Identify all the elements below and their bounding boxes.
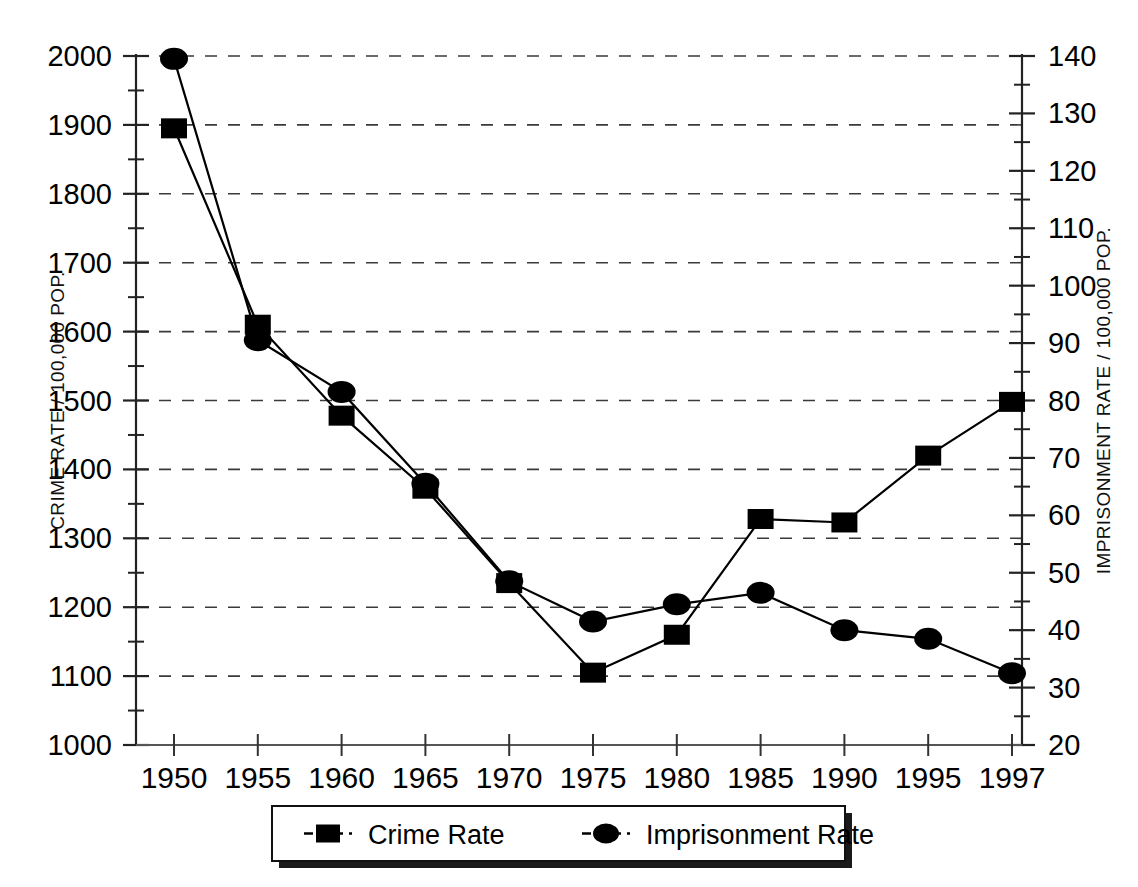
right-axis-tick-label: 70 — [1048, 442, 1080, 474]
left-axis-tick-label: 2000 — [47, 40, 112, 72]
right-axis-tick-label: 90 — [1048, 327, 1080, 359]
data-point-square — [161, 118, 187, 138]
right-axis-tick-label: 30 — [1048, 672, 1080, 704]
right-axis-tick-label: 40 — [1048, 614, 1080, 646]
left-axis-tick-label: 1100 — [50, 660, 112, 692]
x-axis-tick-label: 1975 — [560, 761, 627, 794]
right-axis-tick-label: 80 — [1048, 385, 1080, 417]
x-axis-tick-label: 1970 — [476, 761, 543, 794]
right-axis-tick-label: 50 — [1048, 557, 1080, 589]
legend-marker-circle — [593, 824, 619, 844]
data-point-circle — [411, 473, 439, 495]
legend-label: Crime Rate — [368, 820, 505, 850]
x-axis-tick-label: 1955 — [224, 761, 291, 794]
data-point-circle — [160, 48, 188, 70]
x-axis-tick-label: 1950 — [141, 761, 208, 794]
x-axis-tick-label: 1965 — [392, 761, 459, 794]
data-point-circle — [998, 662, 1026, 684]
right-axis-tick-label: 140 — [1048, 40, 1096, 72]
data-point-circle — [914, 628, 942, 650]
data-point-circle — [244, 329, 272, 351]
left-axis-tick-label: 1000 — [47, 729, 112, 761]
right-axis-tick-label: 100 — [1048, 270, 1096, 302]
x-axis-tick-label: 1990 — [811, 761, 878, 794]
chart-container: 1000110012001300140015001600170018001900… — [0, 0, 1138, 887]
left-axis-tick-label: 1900 — [47, 109, 112, 141]
right-axis-tick-label: 120 — [1048, 155, 1096, 187]
data-point-square — [580, 663, 606, 683]
data-point-square — [329, 406, 355, 426]
x-axis-tick-label: 1980 — [643, 761, 710, 794]
legend-marker-square — [316, 825, 340, 843]
data-point-circle — [579, 611, 607, 633]
data-point-square — [831, 512, 857, 532]
data-point-square — [748, 509, 774, 529]
right-axis-title: IMPRISONMENT RATE / 100,000 POP. — [1093, 227, 1114, 575]
data-point-circle — [495, 570, 523, 592]
x-axis-tick-label: 1997 — [979, 761, 1046, 794]
data-point-circle — [328, 381, 356, 403]
dual-axis-line-chart: 1000110012001300140015001600170018001900… — [0, 0, 1138, 887]
right-axis-tick-label: 110 — [1048, 212, 1094, 244]
x-axis-tick-label: 1960 — [308, 761, 375, 794]
right-axis-tick-label: 130 — [1048, 97, 1096, 129]
legend-box[interactable]: Crime RateImprisonment Rate — [272, 806, 874, 868]
data-point-square — [664, 625, 690, 645]
data-point-circle — [663, 593, 691, 615]
data-point-circle — [747, 582, 775, 604]
data-point-square — [999, 392, 1025, 412]
right-axis-tick-label: 20 — [1048, 729, 1080, 761]
left-axis-title: CRIME RATE / 100,000 POP. — [47, 271, 68, 530]
x-axis-tick-label: 1995 — [895, 761, 962, 794]
left-axis-tick-label: 1200 — [47, 591, 112, 623]
data-point-square — [915, 446, 941, 466]
left-axis-tick-label: 1800 — [47, 178, 112, 210]
legend-label: Imprisonment Rate — [646, 820, 874, 850]
x-axis-tick-label: 1985 — [727, 761, 794, 794]
right-axis-tick-label: 60 — [1048, 499, 1080, 531]
data-point-circle — [830, 619, 858, 641]
